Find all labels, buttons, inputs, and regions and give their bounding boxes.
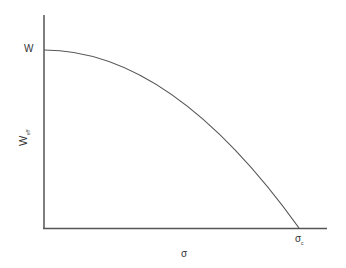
diagram-canvas: W W eff σ σ c bbox=[0, 0, 346, 268]
x-intercept-label: σ c bbox=[295, 233, 304, 246]
svg-text:W: W bbox=[17, 135, 29, 146]
weff-curve bbox=[44, 50, 299, 228]
x-axis-label: σ bbox=[181, 248, 188, 259]
y-intercept-label: W bbox=[24, 43, 34, 54]
svg-text:c: c bbox=[301, 240, 304, 246]
svg-text:eff: eff bbox=[25, 129, 31, 135]
y-axis-label: W eff bbox=[17, 129, 31, 146]
